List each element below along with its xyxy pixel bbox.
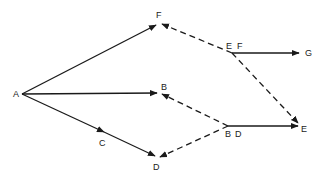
- edge-ef-to-f: [162, 24, 232, 53]
- node-label-c: C: [99, 138, 106, 148]
- node-label-bd-b: B: [225, 129, 231, 139]
- node-label-ef-f: F: [237, 41, 243, 51]
- node-label-bd-d: D: [235, 129, 242, 139]
- edge-a-to-b: [22, 93, 157, 94]
- node-label-f: F: [156, 10, 162, 20]
- edge-c-to-d: [104, 132, 155, 156]
- node-label-e: E: [301, 124, 307, 134]
- node-label-g: G: [305, 48, 312, 58]
- edge-bd-to-d: [160, 126, 228, 157]
- edge-ef-to-e: [232, 53, 298, 123]
- edge-a-to-c: [22, 94, 104, 132]
- network-diagram: A F B C D E F G B D E: [0, 0, 321, 178]
- edge-a-to-f: [22, 25, 156, 94]
- node-label-d: D: [153, 162, 160, 172]
- node-label-ef-e: E: [226, 41, 232, 51]
- node-label-a: A: [13, 89, 19, 99]
- node-label-b: B: [161, 82, 167, 92]
- edge-bd-to-b: [162, 94, 228, 126]
